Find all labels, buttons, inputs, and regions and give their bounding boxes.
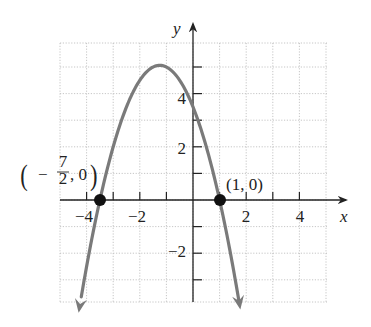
x-tick-label-2: 2 (242, 207, 251, 226)
y-tick-label-4: 4 (178, 89, 187, 108)
x-tick-label-neg2: −2 (128, 207, 146, 226)
svg-text:, 0: , 0 (70, 165, 87, 184)
y-axis-label: y (171, 19, 181, 38)
x-intercept-point-left (94, 194, 106, 206)
curve-arrow-left-icon (75, 298, 87, 313)
y-tick-label-neg2: −2 (168, 242, 186, 261)
point-label-right: (1, 0) (226, 175, 263, 194)
svg-text:(: ( (20, 158, 27, 192)
y-tick-label-2: 2 (178, 139, 187, 158)
chart-canvas: −4 −2 2 4 4 2 −2 x y ( − 7 2 , 0 ) (1, 0… (0, 0, 371, 327)
x-tick-label-4: 4 (296, 207, 305, 226)
x-axis-label: x (339, 207, 348, 226)
parabola-curve (81, 65, 238, 300)
point-label-left: ( − 7 2 , 0 ) (20, 152, 97, 192)
x-tick-label-neg4: −4 (75, 207, 94, 226)
svg-text:−: − (38, 165, 48, 184)
svg-text:): ) (90, 158, 97, 192)
x-intercept-point-right (214, 194, 226, 206)
svg-text:2: 2 (59, 169, 68, 188)
